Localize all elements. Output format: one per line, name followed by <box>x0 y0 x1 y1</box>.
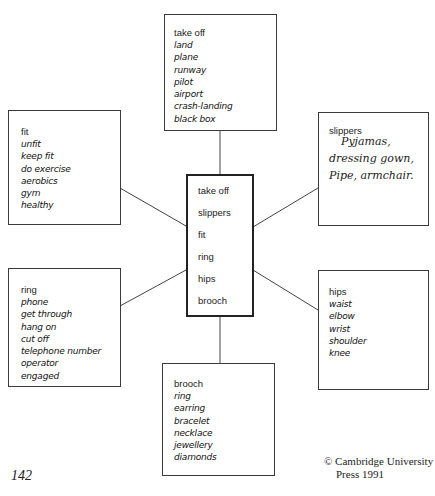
box-hips: hips waist elbow wrist shoulder knee <box>318 270 429 390</box>
copyright-line-1: © Cambridge University <box>324 455 433 467</box>
word-item: hang on <box>21 321 120 333</box>
word-item: waist <box>329 298 428 310</box>
word-item: pilot <box>174 76 276 88</box>
word-item: engaged <box>21 370 120 382</box>
word-item: ring <box>174 390 274 402</box>
box-title: ring <box>21 283 120 296</box>
word-item: healthy <box>21 199 120 211</box>
connector-right-bottom <box>253 270 318 310</box>
connector-right-top <box>253 188 318 227</box>
word-item: unfit <box>21 138 120 150</box>
word-item: get through <box>21 308 120 320</box>
word-item: airport <box>174 88 276 100</box>
box-brooch: brooch ring earring bracelet necklace je… <box>162 363 275 476</box>
center-item-hips: hips <box>188 268 252 290</box>
word-list: waist elbow wrist shoulder knee <box>329 298 428 359</box>
word-item: wrist <box>329 323 428 335</box>
word-item: do exercise <box>21 163 120 175</box>
box-title: brooch <box>174 377 274 390</box>
word-item: crash-landing <box>174 100 276 112</box>
word-item: plane <box>174 51 276 63</box>
center-item-take-off: take off <box>188 180 252 202</box>
word-item: knee <box>329 347 428 359</box>
box-title: fit <box>21 125 120 138</box>
center-item-brooch: brooch <box>188 290 252 312</box>
word-item: keep fit <box>21 150 120 162</box>
word-list: land plane runway pilot airport crash-la… <box>174 39 276 125</box>
word-item: diamonds <box>174 451 274 463</box>
word-item: gym <box>21 187 120 199</box>
word-item: operator <box>21 357 120 369</box>
connector-left-bottom <box>120 270 186 306</box>
box-title: take off <box>174 26 276 39</box>
word-item: cut off <box>21 333 120 345</box>
copyright-notice: © Cambridge University Press 1991 <box>324 455 433 481</box>
box-take-off: take off land plane runway pilot airport… <box>164 14 277 131</box>
word-list: unfit keep fit do exercise aerobics gym … <box>21 138 120 212</box>
copyright-line-2: Press 1991 <box>324 468 433 481</box>
word-item: elbow <box>329 310 428 322</box>
handwritten-line: dressing gown, <box>329 150 428 167</box>
word-list: ring earring bracelet necklace jewellery… <box>174 390 274 464</box>
word-item: earring <box>174 402 274 414</box>
box-ring: ring phone get through hang on cut off t… <box>8 268 121 387</box>
center-item-fit: fit <box>188 224 252 246</box>
center-item-slippers: slippers <box>188 202 252 224</box>
word-item: aerobics <box>21 175 120 187</box>
word-item: necklace <box>174 427 274 439</box>
handwritten-line: Pyjamas, <box>329 133 428 150</box>
word-item: phone <box>21 296 120 308</box>
box-title: hips <box>329 285 428 298</box>
page-number: 142 <box>11 468 32 484</box>
connector-left-top <box>120 188 186 226</box>
word-item: telephone number <box>21 345 120 357</box>
word-item: shoulder <box>329 335 428 347</box>
word-item: bracelet <box>174 415 274 427</box>
word-item: runway <box>174 64 276 76</box>
word-list: phone get through hang on cut off teleph… <box>21 296 120 382</box>
word-item: land <box>174 39 276 51</box>
box-slippers: slippers Pyjamas, dressing gown, Pipe, a… <box>318 112 429 226</box>
center-item-ring: ring <box>188 246 252 268</box>
handwritten-line: Pipe, armchair. <box>329 167 428 184</box>
word-item: jewellery <box>174 439 274 451</box>
center-box: take off slippers fit ring hips brooch <box>186 174 254 317</box>
box-fit: fit unfit keep fit do exercise aerobics … <box>8 110 121 225</box>
word-item: black box <box>174 113 276 125</box>
